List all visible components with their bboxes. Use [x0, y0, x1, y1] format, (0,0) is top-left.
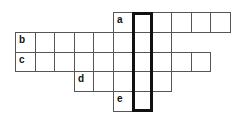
- crossword-cell[interactable]: [54, 32, 75, 53]
- crossword-cell[interactable]: [171, 52, 192, 72]
- crossword-cell[interactable]: [93, 71, 114, 92]
- clue-label: a: [117, 14, 123, 26]
- crossword-cell[interactable]: d: [74, 71, 94, 92]
- crossword-cell[interactable]: [113, 32, 133, 53]
- crossword-cell[interactable]: [152, 52, 172, 72]
- crossword-cell[interactable]: [74, 52, 94, 72]
- crossword-cell[interactable]: [191, 12, 211, 33]
- crossword-cell[interactable]: [191, 52, 211, 72]
- crossword-cell[interactable]: [210, 12, 231, 33]
- crossword-cell[interactable]: b: [15, 32, 36, 53]
- crossword-cell[interactable]: a: [113, 12, 133, 33]
- crossword-grid: abcde: [0, 0, 242, 119]
- crossword-cell[interactable]: [113, 71, 133, 92]
- crossword-cell[interactable]: e: [113, 91, 133, 112]
- crossword-cell[interactable]: [54, 52, 75, 72]
- clue-label: d: [78, 73, 84, 85]
- crossword-cell[interactable]: c: [15, 52, 36, 72]
- crossword-cell[interactable]: [35, 32, 55, 53]
- crossword-cell[interactable]: [74, 32, 94, 53]
- crossword-cell[interactable]: [152, 32, 172, 53]
- crossword-cell[interactable]: [152, 71, 172, 92]
- crossword-cell[interactable]: [93, 52, 114, 72]
- crossword-cell[interactable]: [152, 12, 172, 33]
- clue-label: b: [19, 34, 25, 46]
- crossword-cell[interactable]: [171, 12, 192, 33]
- clue-label: c: [19, 54, 25, 66]
- crossword-cell[interactable]: [35, 52, 55, 72]
- clue-label: e: [117, 93, 123, 105]
- crossword-cell[interactable]: [113, 52, 133, 72]
- highlighted-answer-column: [132, 12, 153, 112]
- crossword-cell[interactable]: [93, 32, 114, 53]
